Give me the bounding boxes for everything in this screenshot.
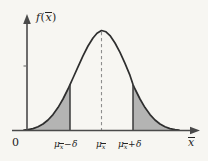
right-bound-delta: δ <box>136 139 141 149</box>
tick-label-left-bound: μx−δ <box>54 140 77 150</box>
left-bound-subscript: x <box>60 143 64 150</box>
y-axis-arrowhead <box>23 14 31 24</box>
right-tail-shaded-region <box>133 85 179 130</box>
x-axis-label-variable: x <box>188 136 194 148</box>
x-axis-label: x <box>188 136 194 148</box>
tick-label-center-mean: μx <box>96 140 106 150</box>
normal-distribution-figure: f(x) x 0 μx−δ μx μx+δ <box>0 0 208 161</box>
y-axis-label-variable: x <box>45 11 51 23</box>
origin-label: 0 <box>12 137 19 148</box>
y-axis-label-function: f <box>36 12 40 23</box>
left-tail-shaded-region <box>24 85 70 130</box>
chart-canvas <box>0 0 208 161</box>
x-axis-arrowhead <box>190 127 200 135</box>
tick-label-right-bound: μx+δ <box>118 140 141 150</box>
y-axis-label: f(x) <box>36 11 57 23</box>
left-bound-delta: δ <box>72 139 77 149</box>
right-bound-operator: + <box>128 139 137 149</box>
right-bound-subscript: x <box>124 143 128 150</box>
left-bound-operator: − <box>64 139 73 149</box>
center-subscript: x <box>102 143 106 150</box>
